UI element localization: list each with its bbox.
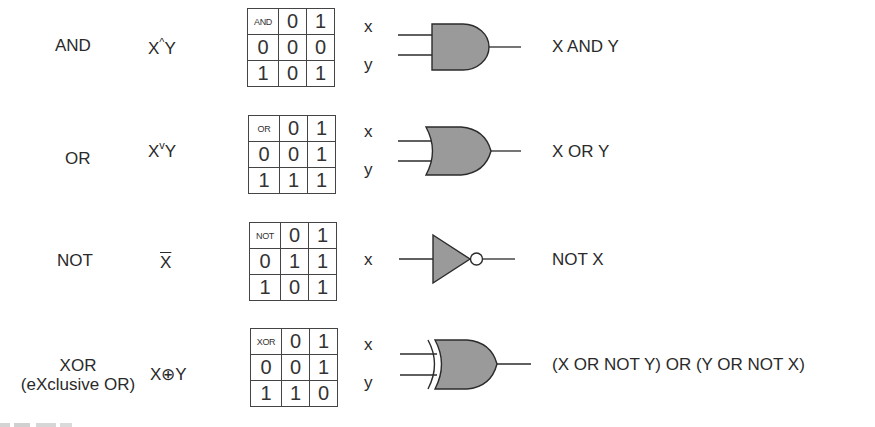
table-cell: 1 (309, 249, 337, 275)
gate-name-or: OR (65, 150, 91, 169)
table-cell: 1 (250, 275, 281, 301)
expression-or: XvY (148, 140, 176, 162)
result-label-xor: (X OR NOT Y) OR (Y OR NOT X) (552, 355, 805, 375)
and-gate-icon (395, 20, 535, 80)
input-label-x: x (364, 17, 373, 37)
result-label-or: X OR Y (552, 142, 609, 162)
table-row: 1 0 1 (248, 61, 335, 87)
table-cell: 1 (249, 168, 280, 194)
input-label-x: x (364, 250, 373, 270)
or-gate-icon (395, 124, 535, 184)
input-label-y: y (364, 373, 373, 393)
truth-table-or: OR 0 1 0 0 1 1 1 1 (248, 115, 336, 194)
table-cell: 0 (280, 142, 308, 168)
table-row: 1 1 1 (249, 168, 336, 194)
table-row: 0 0 0 (248, 35, 335, 61)
table-cell: 0 (251, 355, 282, 381)
result-label-and: X AND Y (552, 37, 619, 57)
gate-name-not: NOT (57, 252, 93, 271)
table-header-cell: 0 (281, 223, 309, 249)
table-cell: 1 (280, 168, 308, 194)
table-cell: 0 (249, 142, 280, 168)
not-gate-icon (395, 230, 535, 290)
table-cell: 1 (308, 142, 336, 168)
table-cell: 0 (279, 35, 307, 61)
table-row: 0 0 1 (249, 142, 336, 168)
table-header-cell: XOR (251, 329, 282, 355)
input-label-y: y (364, 160, 373, 180)
truth-table-and: AND 0 1 0 0 0 1 0 1 (247, 8, 335, 87)
table-cell: 0 (282, 355, 310, 381)
table-cell: 1 (282, 381, 310, 407)
expression-not: X (160, 253, 171, 273)
table-header-cell: AND (248, 9, 279, 35)
clipped-caption (0, 420, 80, 427)
table-cell: 1 (308, 168, 336, 194)
table-cell: 1 (251, 381, 282, 407)
table-row: 1 0 1 (250, 275, 337, 301)
gate-name-and: AND (55, 37, 91, 56)
input-label-x: x (364, 122, 373, 142)
expression-and: X^Y (148, 37, 176, 59)
table-header-cell: 1 (307, 9, 335, 35)
gate-subtitle-xor: (eXclusive OR) (8, 376, 148, 395)
input-label-y: y (364, 55, 373, 75)
table-header-cell: 0 (280, 116, 308, 142)
table-cell: 0 (250, 249, 281, 275)
truth-table-not: NOT 0 1 0 1 1 1 0 1 (249, 222, 337, 301)
table-header-cell: NOT (250, 223, 281, 249)
table-cell: 0 (281, 275, 309, 301)
expression-xor: X⊕Y (150, 364, 187, 385)
table-cell: 0 (310, 381, 338, 407)
table-header-cell: 0 (282, 329, 310, 355)
table-cell: 1 (248, 61, 279, 87)
table-header-cell: OR (249, 116, 280, 142)
gate-name-xor: XOR (eXclusive OR) (8, 357, 148, 394)
table-header-cell: 0 (279, 9, 307, 35)
input-label-x: x (364, 335, 373, 355)
table-row: 0 1 1 (250, 249, 337, 275)
result-label-not: NOT X (552, 250, 604, 270)
table-cell: 0 (279, 61, 307, 87)
table-header-cell: 1 (308, 116, 336, 142)
table-header-cell: 1 (309, 223, 337, 249)
table-row: 0 0 1 (251, 355, 338, 381)
table-header-cell: 1 (310, 329, 338, 355)
table-cell: 0 (248, 35, 279, 61)
table-cell: 1 (309, 275, 337, 301)
table-cell: 1 (307, 61, 335, 87)
table-cell: 1 (310, 355, 338, 381)
table-cell: 1 (281, 249, 309, 275)
table-cell: 0 (307, 35, 335, 61)
table-row: 1 1 0 (251, 381, 338, 407)
xor-gate-icon (395, 337, 545, 397)
truth-table-xor: XOR 0 1 0 0 1 1 1 0 (250, 328, 338, 407)
